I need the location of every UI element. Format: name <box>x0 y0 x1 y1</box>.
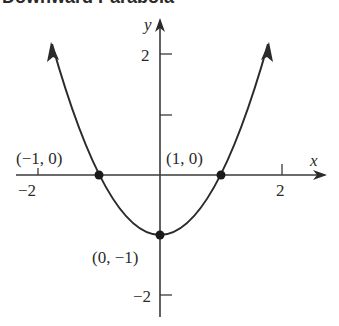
x-tick-label-2: 2 <box>276 181 285 200</box>
point-1-0 <box>217 171 226 180</box>
point-neg1-0 <box>95 171 104 180</box>
y-tick-label-neg2: −2 <box>133 287 151 306</box>
point-label-vertex: (0, −1) <box>92 248 138 267</box>
parabola-graph: y x 2 −2 −2 2 (−1, 0) (1, 0) (0, −1) <box>0 0 339 326</box>
point-label-1-0: (1, 0) <box>166 149 203 168</box>
x-axis-label: x <box>309 151 318 170</box>
point-vertex <box>156 231 165 240</box>
y-axis-label: y <box>142 15 152 34</box>
point-label-neg1-0: (−1, 0) <box>16 149 62 168</box>
y-tick-label-2: 2 <box>141 46 150 65</box>
x-tick-label-neg2: −2 <box>18 181 36 200</box>
